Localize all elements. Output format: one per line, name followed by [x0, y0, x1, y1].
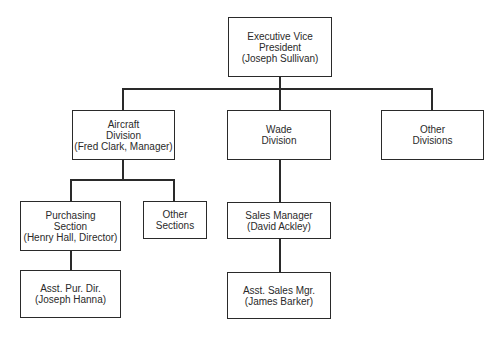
- node-label: (Henry Hall, Director): [24, 232, 118, 243]
- node-asst-sales-manager: Asst. Sales Mgr. (James Barker): [227, 272, 331, 319]
- node-label: Other: [420, 124, 445, 135]
- node-label: Section: [54, 221, 87, 232]
- connector-wade-up: [279, 88, 281, 110]
- node-label: (David Ackley): [247, 221, 311, 232]
- connector-aircraft-down: [122, 159, 124, 181]
- connector-wade-down: [279, 159, 281, 202]
- node-other-sections: Other Sections: [143, 201, 207, 239]
- node-label: (Joseph Hanna): [35, 294, 106, 305]
- node-label: Sections: [156, 220, 194, 231]
- connector-other-divisions-up: [431, 88, 433, 110]
- node-executive-vice-president: Executive Vice President (Joseph Sulliva…: [228, 17, 332, 77]
- connector-sales-manager-down: [279, 238, 281, 272]
- node-label: Asst. Sales Mgr.: [243, 285, 315, 296]
- node-asst-purchasing-director: Asst. Pur. Dir. (Joseph Hanna): [20, 270, 121, 318]
- connector-purchasing-down: [70, 250, 72, 270]
- node-wade-division: Wade Division: [227, 110, 331, 160]
- node-label: Divisions: [412, 135, 452, 146]
- org-chart: Executive Vice President (Joseph Sulliva…: [0, 0, 498, 337]
- connector-divisions-horizontal: [122, 88, 433, 90]
- node-label: Purchasing: [45, 210, 95, 221]
- node-label: Executive Vice: [247, 31, 312, 42]
- node-label: Aircraft: [108, 119, 140, 130]
- node-label: Wade: [266, 124, 292, 135]
- node-sales-manager: Sales Manager (David Ackley): [227, 202, 331, 239]
- node-aircraft-division: Aircraft Division (Fred Clark, Manager): [72, 110, 175, 160]
- node-label: (Joseph Sullivan): [242, 53, 319, 64]
- node-label: Division: [261, 135, 296, 146]
- connector-sections-horizontal: [70, 179, 175, 181]
- connector-aircraft-up: [122, 88, 124, 110]
- node-label: (Fred Clark, Manager): [74, 141, 172, 152]
- node-label: Sales Manager: [245, 210, 312, 221]
- node-label: Division: [106, 130, 141, 141]
- node-other-divisions: Other Divisions: [381, 110, 484, 160]
- connector-other-sections-up: [173, 179, 175, 201]
- node-label: Asst. Pur. Dir.: [40, 283, 101, 294]
- node-label: Other: [162, 209, 187, 220]
- node-label: (James Barker): [245, 296, 313, 307]
- node-label: President: [259, 42, 301, 53]
- connector-purchasing-up: [70, 179, 72, 201]
- node-purchasing-section: Purchasing Section (Henry Hall, Director…: [20, 201, 121, 251]
